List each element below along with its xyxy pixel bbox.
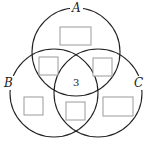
region-a-c-box[interactable]	[93, 58, 112, 76]
set-a-label: A	[71, 1, 81, 15]
region-a-b-box[interactable]	[39, 57, 58, 75]
region-b-only-box[interactable]	[24, 97, 43, 115]
region-abc-value: 3	[73, 77, 79, 88]
set-c-label: C	[134, 76, 143, 90]
set-b-label: B	[3, 76, 13, 90]
region-b-c-box[interactable]	[66, 102, 85, 120]
venn-diagram: A B C 3	[0, 0, 145, 149]
region-c-only-box[interactable]	[103, 97, 133, 116]
region-a-only-box[interactable]	[60, 27, 91, 45]
